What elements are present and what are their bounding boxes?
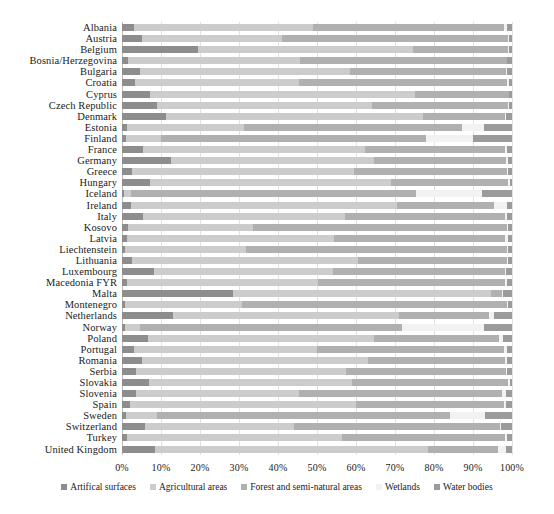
bar-segment-0 xyxy=(122,290,233,297)
bar-segment-4 xyxy=(507,346,512,353)
bar-track xyxy=(122,55,512,66)
x-tick-label: 40% xyxy=(269,462,288,473)
bar-segment-1 xyxy=(148,335,374,342)
bar-segment-1 xyxy=(126,135,161,142)
bar-segment-3 xyxy=(450,412,485,419)
stacked-bar xyxy=(122,312,512,319)
bar-segment-0 xyxy=(122,157,171,164)
bar-segment-0 xyxy=(122,423,145,430)
country-label: Czech Republic xyxy=(0,100,122,111)
bar-row: Luxembourg xyxy=(0,266,554,277)
bar-segment-4 xyxy=(509,79,512,86)
legend-swatch-icon xyxy=(434,484,440,490)
bar-segment-4 xyxy=(510,379,512,386)
bar-track xyxy=(122,122,512,133)
bar-segment-0 xyxy=(122,368,136,375)
stacked-bar xyxy=(122,412,512,419)
bar-segment-2 xyxy=(399,312,489,319)
bar-row: Malta xyxy=(0,288,554,299)
bar-segment-4 xyxy=(506,446,512,453)
bar-segment-1 xyxy=(127,279,318,286)
bar-segment-0 xyxy=(122,335,148,342)
legend-swatch-icon xyxy=(61,484,67,490)
bar-track xyxy=(122,144,512,155)
bar-segment-1 xyxy=(130,401,356,408)
bar-segment-4 xyxy=(506,401,512,408)
bar-track xyxy=(122,66,512,77)
bar-row: Belgium xyxy=(0,44,554,55)
bar-track xyxy=(122,388,512,399)
legend-swatch-icon xyxy=(376,484,382,490)
bar-segment-4 xyxy=(506,113,512,120)
bar-track xyxy=(122,155,512,166)
country-label: Malta xyxy=(0,288,122,299)
bar-segment-1 xyxy=(157,102,372,109)
stacked-bar xyxy=(122,24,512,31)
bar-segment-2 xyxy=(161,135,426,142)
bar-track xyxy=(122,277,512,288)
stacked-bar xyxy=(122,357,512,364)
country-label: Lithuania xyxy=(0,255,122,266)
stacked-bar xyxy=(122,368,512,375)
stacked-bar xyxy=(122,279,512,286)
stacked-bar xyxy=(122,246,512,253)
bar-track xyxy=(122,33,512,44)
x-tick-label: 90% xyxy=(464,462,483,473)
bar-segment-0 xyxy=(122,390,136,397)
bar-row: Austria xyxy=(0,33,554,44)
bar-segment-0 xyxy=(122,91,150,98)
chart-legend: Artifical surfacesAgricultural areasFore… xyxy=(0,482,554,492)
bar-segment-2 xyxy=(317,346,504,353)
bar-segment-2 xyxy=(415,91,509,98)
legend-label: Agricultural areas xyxy=(159,482,227,492)
country-label: Slovenia xyxy=(0,388,122,399)
bar-segment-4 xyxy=(507,279,512,286)
bar-segment-2 xyxy=(428,446,498,453)
stacked-bar xyxy=(122,434,512,441)
bar-segment-0 xyxy=(122,79,135,86)
bar-segment-1 xyxy=(132,168,354,175)
country-label: Cyprus xyxy=(0,89,122,100)
bar-segment-4 xyxy=(509,102,512,109)
bar-segment-0 xyxy=(122,446,155,453)
legend-label: Water bodies xyxy=(443,482,493,492)
stacked-bar xyxy=(122,91,512,98)
bar-segment-2 xyxy=(282,35,508,42)
bar-segment-1 xyxy=(166,113,423,120)
bar-rows: AlbaniaAustriaBelgiumBosnia/HerzegovinaB… xyxy=(0,22,554,455)
bar-row: Finland xyxy=(0,133,554,144)
bar-segment-1 xyxy=(127,124,244,131)
bar-segment-1 xyxy=(132,257,358,264)
bar-track xyxy=(122,288,512,299)
bar-row: Iceland xyxy=(0,188,554,199)
country-label: Poland xyxy=(0,333,122,344)
bar-segment-0 xyxy=(122,213,143,220)
stacked-bar xyxy=(122,102,512,109)
bar-segment-2 xyxy=(356,401,504,408)
x-tick-label: 80% xyxy=(425,462,444,473)
bar-segment-3 xyxy=(426,135,473,142)
bar-segment-1 xyxy=(136,368,347,375)
bar-segment-2 xyxy=(397,202,495,209)
stacked-bar xyxy=(122,235,512,242)
stacked-bar xyxy=(122,57,512,64)
bar-segment-2 xyxy=(413,46,509,53)
bar-row: France xyxy=(0,144,554,155)
bar-segment-2 xyxy=(491,290,503,297)
bar-row: Slovenia xyxy=(0,388,554,399)
bar-segment-2 xyxy=(333,268,505,275)
bar-segment-2 xyxy=(299,79,508,86)
bar-row: Germany xyxy=(0,155,554,166)
bar-segment-2 xyxy=(374,157,507,164)
country-label: Netherlands xyxy=(0,310,122,321)
stacked-bar xyxy=(122,68,512,75)
bar-row: Portugal xyxy=(0,344,554,355)
bar-segment-2 xyxy=(157,412,450,419)
bar-track xyxy=(122,366,512,377)
bar-segment-1 xyxy=(150,91,415,98)
bar-segment-3 xyxy=(402,324,484,331)
bar-segment-1 xyxy=(134,24,313,31)
bar-segment-0 xyxy=(122,401,130,408)
bar-segment-1 xyxy=(145,423,293,430)
bar-segment-4 xyxy=(507,57,512,64)
